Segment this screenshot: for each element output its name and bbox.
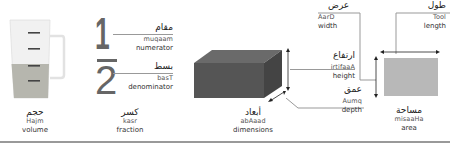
fraction-numerator-digit: 1 <box>95 12 110 56</box>
measuring-jug-illustration <box>4 14 66 102</box>
area-illustration <box>372 48 450 100</box>
area-arabic: مساحة <box>374 106 444 115</box>
width-translit: AarD <box>318 13 363 22</box>
dimensions-arabic: أبعاد <box>218 108 288 117</box>
numerator-arabic: مقام <box>115 23 173 32</box>
area-translit: misaaHa <box>374 115 444 124</box>
volume-caption: حجم Hajm volume <box>0 108 70 135</box>
numerator-translit: muqaam <box>115 35 173 44</box>
volume-english: volume <box>0 126 70 135</box>
length-label: طول Tool length <box>400 1 446 31</box>
length-english: length <box>400 22 446 31</box>
fraction-translit: kasr <box>95 117 165 126</box>
length-arabic: طول <box>400 1 446 10</box>
area-caption: مساحة misaaHa area <box>374 106 444 133</box>
denominator-translit: basT <box>100 74 173 83</box>
fraction-caption: كسر kasr fraction <box>95 108 165 135</box>
volume-translit: Hajm <box>0 117 70 126</box>
numerator-english: numerator <box>115 44 173 53</box>
dimensions-translit: abAaad <box>218 117 288 126</box>
denominator-label: بسط basT denominator <box>100 62 173 92</box>
dimensions-english: dimensions <box>218 126 288 135</box>
depth-english: depth <box>300 106 362 115</box>
numerator-label: مقام muqaam numerator <box>115 23 173 53</box>
dimensions-caption: أبعاد abAaad dimensions <box>218 108 288 135</box>
depth-arabic: عمق <box>300 85 362 94</box>
fraction-arabic: كسر <box>95 108 165 117</box>
denominator-arabic: بسط <box>100 62 173 71</box>
volume-arabic: حجم <box>0 108 70 117</box>
depth-label: عمق Aumq depth <box>300 85 362 115</box>
width-english: width <box>318 22 363 31</box>
bottom-divider <box>0 141 450 143</box>
depth-translit: Aumq <box>300 97 362 106</box>
fraction-english: fraction <box>95 126 165 135</box>
area-english: area <box>374 124 444 133</box>
width-arabic: عرض <box>318 1 363 10</box>
length-translit: Tool <box>400 13 446 22</box>
width-label: عرض AarD width <box>318 1 363 31</box>
denominator-english: denominator <box>100 83 173 92</box>
